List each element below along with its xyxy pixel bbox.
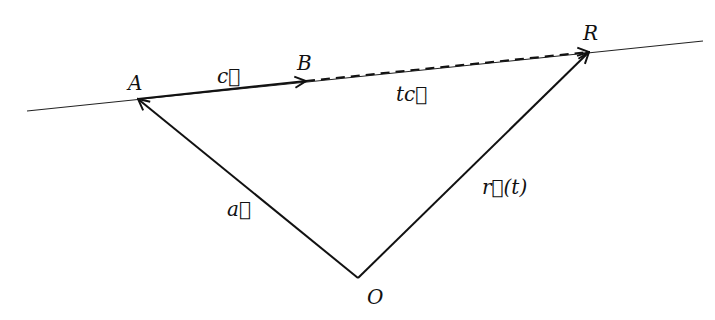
point-label-a: A (126, 71, 142, 95)
vector-label-tc: tc⃗ (396, 82, 427, 106)
point-label-o: O (367, 285, 383, 309)
vector-r-arrow (358, 52, 589, 278)
point-label-r: R (582, 21, 598, 45)
vector-label-c: c⃗ (217, 64, 240, 88)
point-label-b: B (296, 51, 312, 75)
vector-a-arrow (138, 99, 358, 278)
vector-line-diagram: A B R O c⃗ tc⃗ a⃗ r⃗(t) (0, 0, 715, 320)
vector-tc-arrow (306, 52, 589, 81)
vector-label-r: r⃗(t) (482, 175, 527, 199)
vector-label-a: a⃗ (227, 197, 251, 221)
